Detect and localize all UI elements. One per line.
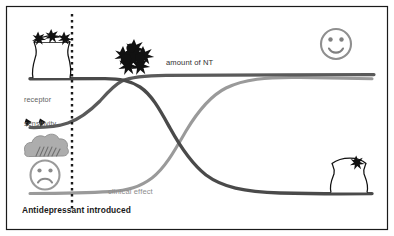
sad-face-icon [31,161,60,190]
antidepressant-introduced-label: Antidepressant introduced [22,206,131,215]
diagram-canvas [0,0,394,236]
happy-face-icon [321,29,351,59]
receptor-with-one-star-icon [330,155,367,192]
clinical-effect-label: clinical effect [108,188,153,197]
receptor-sensitivity-label: receptor sensitivity [24,80,56,145]
receptor-sensitivity-label-line1: receptor [24,96,56,104]
antidepressant-receptor-diagram: receptor sensitivity amount of NT clinic… [0,0,394,236]
receptor-with-three-stars-icon [32,29,72,78]
amount-of-nt-label: amount of NT [166,59,213,68]
receptor-sensitivity-label-line2: sensitivity [24,120,56,128]
